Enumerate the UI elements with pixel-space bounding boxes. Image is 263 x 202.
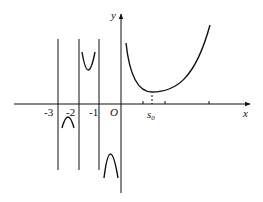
label-neg2: -2 xyxy=(66,106,75,118)
s0-label: s0 xyxy=(147,108,155,122)
label-neg3: -3 xyxy=(44,106,54,118)
branch-neg3-neg2 xyxy=(62,117,74,128)
branch-positive xyxy=(126,25,210,92)
function-graph: -3 -2 -1 O s0 x y xyxy=(0,0,263,202)
branch-neg1-0 xyxy=(104,154,118,178)
branch-neg2-neg1 xyxy=(82,52,95,70)
origin-label: O xyxy=(110,106,118,118)
x-axis-label: x xyxy=(242,107,248,119)
label-neg1: -1 xyxy=(89,106,98,118)
y-axis-label: y xyxy=(110,9,116,21)
